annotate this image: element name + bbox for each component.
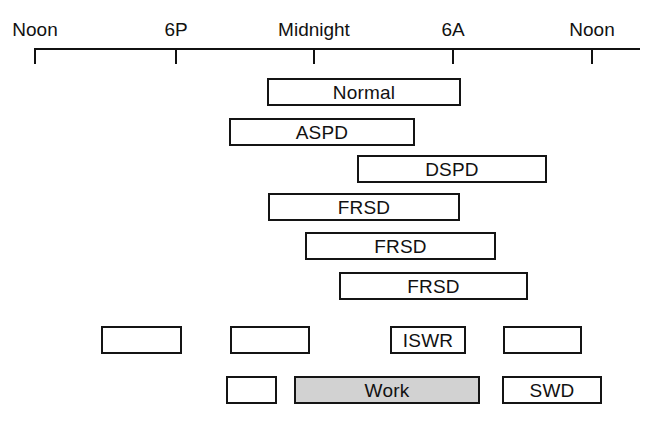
axis-tick bbox=[591, 50, 593, 64]
bar-iswr-1 bbox=[101, 326, 182, 354]
axis-tick bbox=[452, 50, 454, 64]
bar-label: SWD bbox=[530, 381, 575, 400]
axis-tick bbox=[175, 50, 177, 64]
bar-normal: Normal bbox=[267, 78, 461, 106]
bar-label: ISWR bbox=[403, 331, 453, 350]
bar-dspd: DSPD bbox=[357, 155, 547, 183]
bar-swd-2: Work bbox=[294, 376, 480, 404]
bar-iswr-3: ISWR bbox=[390, 326, 466, 354]
bar-label: Normal bbox=[333, 83, 395, 102]
bar-label: ASPD bbox=[296, 123, 349, 142]
axis-tick-label: 6A bbox=[441, 20, 464, 39]
bar-label: FRSD bbox=[338, 198, 391, 217]
bar-swd-3: SWD bbox=[502, 376, 602, 404]
bar-label: Work bbox=[365, 381, 410, 400]
bar-label: FRSD bbox=[407, 277, 460, 296]
axis-tick-label: Midnight bbox=[278, 20, 350, 39]
bar-frsd-3: FRSD bbox=[339, 272, 528, 300]
axis-line bbox=[34, 48, 640, 50]
bar-frsd-1: FRSD bbox=[268, 193, 460, 221]
bar-iswr-2 bbox=[230, 326, 310, 354]
axis-tick bbox=[34, 50, 36, 64]
axis-tick-label: Noon bbox=[12, 20, 57, 39]
bar-aspd: ASPD bbox=[229, 118, 415, 146]
axis-tick bbox=[313, 50, 315, 64]
bar-iswr-4 bbox=[503, 326, 582, 354]
bar-label: DSPD bbox=[425, 160, 479, 179]
axis-tick-label: Noon bbox=[569, 20, 614, 39]
axis-tick-label: 6P bbox=[164, 20, 187, 39]
bar-frsd-2: FRSD bbox=[305, 232, 496, 260]
sleep-disorder-timeline-figure: Noon6PMidnight6ANoon NormalASPDDSPDFRSDF… bbox=[0, 0, 670, 424]
bar-label: FRSD bbox=[374, 237, 427, 256]
bar-swd-1 bbox=[226, 376, 277, 404]
